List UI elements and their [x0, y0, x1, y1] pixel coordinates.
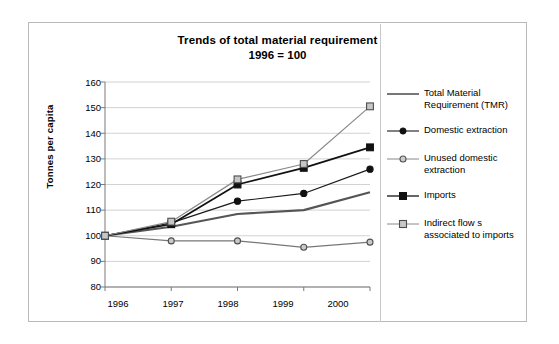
legend-label-line2: Requirement (TMR) — [424, 99, 508, 110]
legend-label-line2: extraction — [424, 164, 465, 175]
chart-legend: Total Material Requirement (TMR) Domesti… — [385, 87, 530, 254]
legend-label-line1: Unused domestic — [424, 152, 497, 163]
data-point — [235, 238, 241, 244]
legend-item-tmr: Total Material Requirement (TMR) — [385, 87, 530, 110]
data-point — [367, 239, 373, 245]
data-point — [301, 244, 307, 250]
series-5 — [102, 103, 374, 239]
data-point — [168, 238, 174, 244]
data-point — [300, 161, 307, 168]
legend-label: Total Material Requirement (TMR) — [421, 87, 508, 110]
data-series-layer — [102, 103, 374, 250]
data-point — [102, 232, 109, 239]
data-point — [367, 103, 374, 110]
series-4 — [102, 144, 374, 239]
chart-figure: Trends of total material requirement 199… — [28, 22, 527, 322]
legend-item-indirect-flows: Indirect flow s associated to imports — [385, 217, 530, 240]
legend-marker-open-square-icon — [385, 217, 421, 231]
legend-label: Unused domestic extraction — [421, 152, 497, 175]
data-point — [168, 218, 175, 225]
data-point — [301, 190, 307, 196]
legend-label: Indirect flow s associated to imports — [421, 217, 514, 240]
legend-label: Domestic extraction — [421, 124, 507, 136]
legend-item-unused-domestic-extraction: Unused domestic extraction — [385, 152, 530, 175]
legend-item-domestic-extraction: Domestic extraction — [385, 124, 530, 138]
legend-marker-filled-circle-icon — [385, 124, 421, 138]
data-point — [367, 166, 373, 172]
legend-label: Imports — [421, 189, 456, 201]
legend-label-line1: Total Material — [424, 87, 481, 98]
data-point — [234, 176, 241, 183]
legend-divider — [380, 24, 381, 322]
legend-marker-line-icon — [385, 87, 421, 101]
legend-label-line1: Indirect flow s — [424, 217, 482, 228]
data-point — [234, 198, 240, 204]
legend-marker-filled-square-icon — [385, 189, 421, 203]
legend-label-line2: associated to imports — [424, 229, 514, 240]
legend-marker-open-circle-icon — [385, 152, 421, 166]
data-point — [367, 144, 374, 151]
legend-item-imports: Imports — [385, 189, 530, 203]
